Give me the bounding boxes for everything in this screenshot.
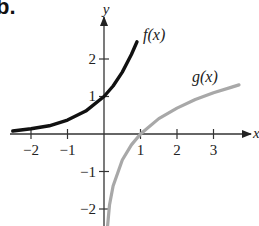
x-tick-label: 2 [173, 142, 181, 158]
x-tick-label: −1 [60, 142, 76, 158]
x-axis-label: x [252, 125, 259, 141]
g-curve-label: g(x) [192, 68, 218, 86]
f-curve-label: f(x) [143, 26, 165, 44]
y-axis-label: y [101, 1, 110, 17]
y-tick-label: 2 [89, 51, 97, 67]
x-tick-label: 1 [137, 142, 145, 158]
x-tick-label: −2 [23, 142, 39, 158]
graph: −2 −1 1 2 3 2 1 −1 −2 x y f(x) g(x) [0, 0, 259, 226]
y-tick-label: −2 [80, 201, 96, 217]
y-tick-label: −1 [80, 164, 96, 180]
y-tick-label: 1 [89, 88, 97, 104]
f-curve [13, 42, 137, 131]
x-tick-label: 3 [210, 142, 218, 158]
